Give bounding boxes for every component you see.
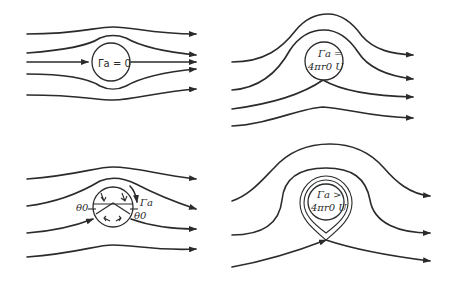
flow-diagram: Γa = 0 Γa θ0 θ0 Γa = 4πr0 [0, 0, 453, 282]
circulation-label-line1: Γa > [316, 189, 341, 200]
theta-left-label: θ0 [76, 202, 89, 213]
streamline [232, 240, 326, 267]
circulation-label-line2: 4πr0 U [310, 202, 347, 213]
streamline [232, 80, 413, 109]
streamline [27, 89, 196, 100]
circulation-label-line1: Γa = [317, 48, 342, 59]
streamline [27, 167, 196, 179]
circulation-label-line2: 4πr0 U [307, 61, 344, 72]
circulation-label: Γa = 0 [98, 58, 131, 69]
streamline [232, 107, 413, 126]
theta-right-label: θ0 [134, 210, 147, 221]
panel-subcritical-circulation: Γa θ0 θ0 [27, 167, 196, 257]
panel-zero-circulation: Γa = 0 [27, 27, 196, 100]
streamline [27, 245, 196, 257]
panel-supercritical-circulation: Γa > 4πr0 U [232, 144, 430, 267]
panel-critical-circulation: Γa = 4πr0 U [232, 14, 413, 126]
gamma-label: Γa [139, 197, 153, 208]
streamline [27, 27, 196, 34]
cylinder [93, 187, 133, 227]
streamline [27, 219, 93, 233]
streamline [326, 240, 430, 261]
